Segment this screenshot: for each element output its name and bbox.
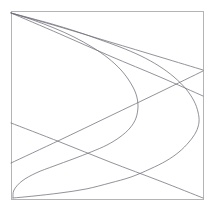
plot-svg <box>0 0 213 211</box>
chord-lower <box>11 123 203 198</box>
chord-upper <box>11 13 203 70</box>
plot-canvas <box>0 0 213 211</box>
curve-layer <box>11 13 203 198</box>
chord-cross-a <box>11 71 203 163</box>
chord-cross-b <box>11 13 203 96</box>
